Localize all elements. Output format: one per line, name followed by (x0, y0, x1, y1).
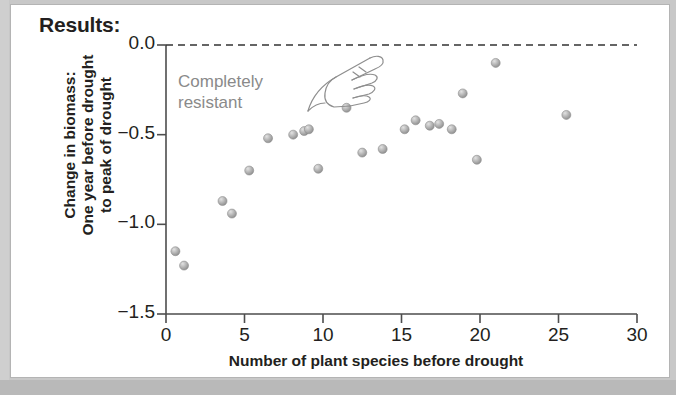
data-point (180, 261, 189, 270)
data-point (304, 125, 313, 134)
data-point (400, 125, 409, 134)
data-point (218, 197, 227, 206)
data-point (425, 121, 434, 130)
data-point (491, 58, 500, 67)
x-tick-label: 15 (382, 324, 422, 346)
data-point (289, 130, 298, 139)
data-point (411, 116, 420, 125)
data-point (264, 134, 273, 143)
data-point (245, 166, 254, 175)
data-point (314, 164, 323, 173)
x-tick-label: 30 (617, 324, 657, 346)
data-point (562, 110, 571, 119)
y-tick-label: −1.0 (93, 211, 155, 233)
chart-panel: Results: Change in biomass: One year bef… (10, 4, 670, 378)
pointing-hand-icon (296, 53, 401, 115)
data-point (472, 155, 481, 164)
data-point (458, 89, 467, 98)
annotation-completely-resistant: Completely resistant (178, 71, 263, 113)
x-tick-label: 20 (460, 324, 500, 346)
figure-container: Results: Change in biomass: One year bef… (0, 0, 676, 395)
x-tick-label: 10 (303, 324, 343, 346)
x-tick-label: 25 (539, 324, 579, 346)
data-point (171, 247, 180, 256)
data-point (435, 119, 444, 128)
bottom-frame-strip (0, 380, 676, 395)
y-tick-label: −1.5 (93, 301, 155, 323)
x-tick-label: 5 (225, 324, 265, 346)
data-point (378, 145, 387, 154)
x-axis-label: Number of plant species before drought (141, 352, 611, 370)
y-tick-label: 0.0 (93, 32, 155, 54)
data-point (358, 148, 367, 157)
data-point (447, 125, 456, 134)
data-point (227, 209, 236, 218)
x-tick-label: 0 (146, 324, 186, 346)
left-frame-strip (0, 0, 9, 380)
y-tick-label: −0.5 (93, 122, 155, 144)
